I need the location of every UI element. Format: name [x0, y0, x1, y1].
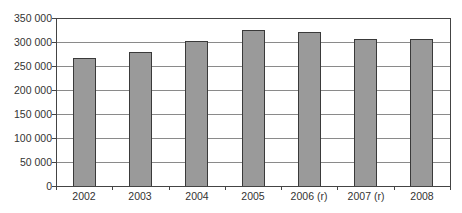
plot-frame-top	[56, 18, 450, 19]
y-tick-label: 350 000	[14, 12, 52, 24]
bar-2003	[129, 52, 152, 187]
x-tick-label: 2006 (r)	[279, 190, 339, 202]
y-tick-label: 250 000	[14, 60, 52, 72]
bar-2007r	[354, 39, 377, 187]
plot-frame-right	[450, 18, 451, 186]
bar-2004	[185, 41, 208, 187]
y-tick-label: 50 000	[20, 156, 52, 168]
y-tick-label: 0	[46, 180, 52, 192]
bar-2002	[73, 58, 96, 187]
x-tick-label: 2005	[223, 190, 283, 202]
bar-2008	[410, 39, 433, 187]
x-axis	[52, 186, 450, 187]
y-tick-label: 300 000	[14, 36, 52, 48]
x-tick-label: 2008	[392, 190, 452, 202]
y-axis	[56, 18, 57, 186]
y-tick-label: 200 000	[14, 84, 52, 96]
x-tick-label: 2007 (r)	[336, 190, 396, 202]
bar-chart: 050 000100 000150 000200 000250 000300 0…	[0, 0, 462, 213]
y-tick-label: 100 000	[14, 132, 52, 144]
x-tick-label: 2004	[167, 190, 227, 202]
bar-2005	[242, 30, 265, 187]
bar-2006r	[298, 32, 321, 187]
x-tick-label: 2002	[54, 190, 114, 202]
y-tick-label: 150 000	[14, 108, 52, 120]
x-tick-label: 2003	[110, 190, 170, 202]
